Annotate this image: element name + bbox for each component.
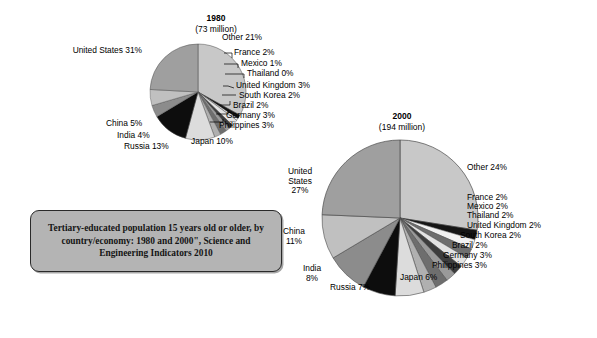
pie-2000-title-total: (194 million) <box>352 122 452 133</box>
chart-2000: 2000 (194 million) <box>280 105 597 338</box>
pie-2000-label-russia: Russia 7% <box>330 283 370 293</box>
pie-1980-label-india: India 4% <box>117 131 150 141</box>
pie-1980-title: 1980 (73 million) <box>170 13 262 34</box>
pie-2000-title: 2000 (194 million) <box>352 111 452 132</box>
pie-2000-label-india: India 8% <box>290 264 334 283</box>
caption-box: Tertiary-educated population 15 years ol… <box>30 210 282 272</box>
pie-2000-label-united-states-line3: 27% <box>272 186 328 196</box>
pie-1980-label-china: China 5% <box>106 119 142 129</box>
pie-1980-label-philippines: Philippines 3% <box>219 121 274 131</box>
caption-text: Tertiary-educated population 15 years ol… <box>31 222 281 260</box>
pie-2000-label-philippines: Philippines 3% <box>432 261 487 271</box>
pie-1980-label-united-states: United States 31% <box>0 46 142 56</box>
pie-2000-title-year: 2000 <box>393 111 412 121</box>
pie-1980-label-thailand: Thailand 0% <box>247 69 294 79</box>
pie-2000-label-other: Other 24% <box>467 163 507 173</box>
pie-2000-label-united-states: United States 27% <box>272 167 328 196</box>
pie-1980-label-russia: Russia 13% <box>124 142 169 152</box>
pie-1980-title-year: 1980 <box>207 13 226 23</box>
pie-1980-label-other: Other 21% <box>222 33 262 43</box>
pie-1980-label-japan: Japan 10% <box>182 137 242 147</box>
pie-1980-slice-united-states <box>150 44 198 92</box>
pie-2000-label-india-line2: 8% <box>290 274 334 284</box>
pie-1980-label-france: France 2% <box>234 48 275 58</box>
pie-2000-label-japan: Japan 6% <box>400 273 437 283</box>
pie-2000-slice-united-states <box>322 140 400 218</box>
figure-canvas: 1980 (73 million) <box>0 0 597 338</box>
